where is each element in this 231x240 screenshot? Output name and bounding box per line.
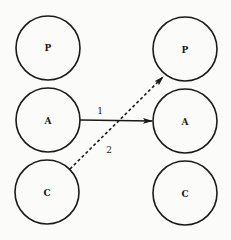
right-node-p: P [153,17,217,81]
edge-1: 1 [80,106,152,122]
node-label: A [181,117,190,127]
node-label: P [45,43,52,53]
diagram-canvas: P A C P A C 1 2 [0,0,231,240]
left-node-c: C [15,160,79,224]
node-label: A [44,116,53,126]
left-node-a: A [16,88,80,152]
edge-label: 1 [97,106,103,116]
solid-arrow [80,120,152,121]
node-label: P [182,45,189,55]
edge-2: 2 [70,77,163,169]
node-label: C [181,189,188,199]
right-node-a: A [153,89,217,153]
dashed-arrow [70,77,163,169]
right-node-c: C [153,161,217,225]
edge-label: 2 [106,145,112,155]
node-label: C [43,188,50,198]
left-node-p: P [16,16,80,80]
